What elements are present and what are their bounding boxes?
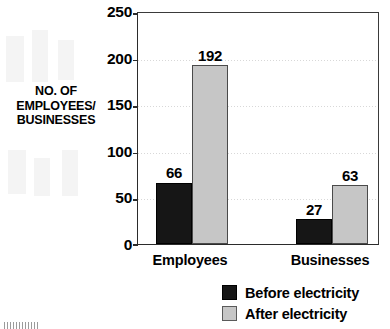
legend-item-before-electricity: Before electricity (222, 283, 359, 302)
scan-texture (32, 30, 48, 82)
scan-texture (6, 36, 24, 82)
scan-edge-artifact (4, 322, 38, 329)
scan-texture (58, 40, 74, 80)
y-tick-mark-50 (133, 199, 138, 201)
legend-swatch-icon-after-electricity (222, 306, 237, 321)
gridline-100 (138, 153, 378, 154)
y-tick-label-100: 100 (86, 143, 132, 161)
y-tick-label-200: 200 (86, 50, 132, 68)
bar-value-businesses-before: 27 (284, 201, 344, 218)
y-tick-label-150: 150 (86, 96, 132, 114)
bar-employees-after-electricity (192, 65, 228, 244)
bar-employees-before-electricity (156, 183, 192, 245)
legend-item-after-electricity: After electricity (222, 304, 359, 323)
y-tick-mark-200 (133, 60, 138, 62)
bar-chart-figure: NO. OF EMPLOYEES/ BUSINESSES 250 200 150… (0, 0, 390, 329)
y-tick-mark-250 (133, 13, 138, 15)
plot-area: 66 192 27 63 (138, 13, 378, 244)
scan-texture (62, 150, 78, 196)
y-tick-label-50: 50 (86, 189, 132, 207)
gridline-150 (138, 106, 378, 107)
y-tick-mark-100 (133, 153, 138, 155)
y-tick-mark-150 (133, 106, 138, 108)
y-tick-label-250: 250 (86, 3, 132, 21)
gridline-200 (138, 60, 378, 61)
y-axis-title-line-3: BUSINESSES (0, 113, 112, 128)
legend-label-before-electricity: Before electricity (245, 285, 359, 301)
bar-value-employees-before: 66 (144, 164, 204, 181)
bar-value-employees-after: 192 (180, 47, 240, 64)
legend-label-after-electricity: After electricity (245, 306, 347, 322)
scan-texture (8, 150, 26, 194)
y-tick-mark-0 (133, 244, 138, 246)
x-axis-category-employees: Employees (135, 252, 245, 268)
x-axis-category-businesses: Businesses (275, 252, 385, 268)
scan-texture (34, 158, 50, 196)
bar-value-businesses-after: 63 (320, 167, 380, 184)
y-tick-label-0: 0 (86, 236, 132, 254)
plot-frame: 66 192 27 63 (137, 12, 379, 245)
legend-swatch-icon-before-electricity (222, 285, 237, 300)
legend: Before electricity After electricity (222, 283, 359, 325)
bar-businesses-before-electricity (296, 219, 332, 244)
